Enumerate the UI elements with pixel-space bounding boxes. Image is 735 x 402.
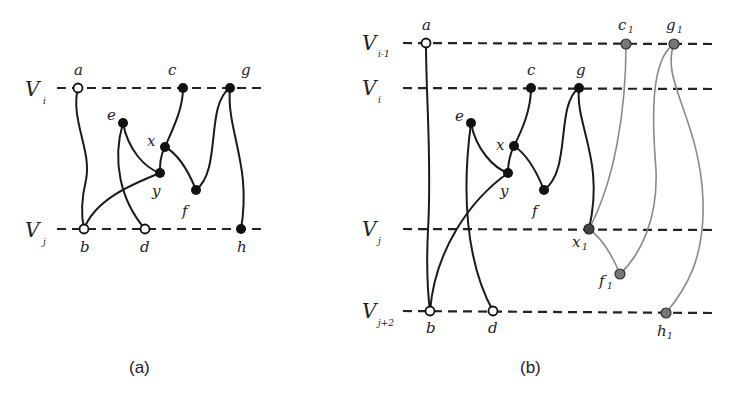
label-c: c	[527, 61, 536, 79]
edge-y-b	[430, 173, 508, 311]
node-a	[74, 84, 83, 93]
node-g	[225, 83, 235, 93]
node-d	[141, 225, 150, 234]
level-label-vj2: V	[362, 299, 379, 323]
label-y: y	[151, 182, 161, 200]
level-label-vj: V	[25, 218, 42, 242]
node-h	[236, 224, 246, 234]
edge-e-d	[466, 123, 493, 311]
label-e: e	[455, 107, 464, 125]
node-b	[426, 307, 435, 316]
node-c	[526, 83, 536, 93]
level-sub-vi-1: i-1	[378, 49, 390, 59]
label-g: g	[576, 61, 586, 79]
node-y	[503, 168, 513, 178]
node-e	[466, 118, 476, 128]
node-f	[191, 185, 201, 195]
level-line-vi-1	[403, 43, 712, 44]
edge-g-f	[196, 88, 230, 190]
level-label-vi: V	[362, 76, 379, 100]
label-x: x	[496, 136, 505, 154]
level-line-vj	[403, 229, 712, 230]
label-g1: g	[666, 16, 676, 34]
label-f: f	[531, 202, 540, 220]
caption-a: (a)	[129, 358, 150, 377]
label-x1: x	[572, 233, 581, 251]
node-b	[80, 225, 89, 234]
label-d: d	[488, 319, 498, 337]
node-c	[178, 83, 188, 93]
edge-c1-x1	[589, 44, 626, 229]
edge-x1-f1	[589, 229, 620, 274]
edge-e-d	[118, 123, 145, 229]
node-g	[574, 83, 584, 93]
label-b: b	[80, 238, 90, 256]
label-d: d	[140, 238, 150, 256]
label-g: g	[241, 61, 251, 79]
node-h1	[661, 308, 671, 318]
node-x1	[584, 224, 594, 234]
level-label-vi: V	[25, 77, 42, 101]
node-c1	[621, 39, 631, 49]
label-f: f	[181, 202, 190, 220]
label-c: c	[168, 61, 177, 79]
panel-a: V i V j a c g e x y f b d h	[25, 61, 266, 377]
level-label-vj: V	[362, 217, 379, 241]
label-h1: h	[657, 322, 667, 340]
edge-g-h	[230, 88, 244, 229]
edge-g-f	[544, 88, 579, 190]
caption-b: (b)	[520, 358, 541, 377]
level-sub-vj2: j+2	[376, 318, 394, 328]
panel-b: V i-1 V i V j V j+2	[362, 16, 712, 377]
node-f1	[615, 269, 625, 279]
label-c1-sub: 1	[628, 25, 634, 35]
node-d	[489, 307, 498, 316]
label-a: a	[74, 61, 83, 79]
edge-c-x	[165, 88, 183, 147]
label-b: b	[426, 319, 436, 337]
node-x	[160, 142, 170, 152]
level-sub-vj: j	[41, 237, 46, 247]
label-c1: c	[618, 16, 627, 34]
level-label-vi-1: V	[362, 31, 379, 55]
edge-a-b	[76, 88, 87, 229]
level-sub-vj: j	[376, 236, 381, 246]
label-f1-sub: 1	[607, 281, 613, 291]
node-e	[118, 118, 128, 128]
label-x: x	[147, 132, 156, 150]
edge-g1-f1	[620, 44, 674, 274]
label-f1: f	[598, 272, 607, 290]
diagram-canvas: V i V j a c g e x y f b d h	[0, 0, 735, 402]
level-sub-vi: i	[43, 96, 46, 106]
edge-x-f	[165, 147, 196, 190]
edge-g-x1	[579, 88, 594, 229]
node-y	[155, 168, 165, 178]
label-h1-sub: 1	[667, 331, 673, 341]
edge-x-f	[514, 146, 544, 190]
node-f	[539, 185, 549, 195]
edge-c-x	[514, 88, 531, 146]
label-e: e	[107, 106, 116, 124]
node-x	[509, 141, 519, 151]
node-a	[422, 39, 431, 48]
label-y: y	[499, 182, 509, 200]
label-a: a	[422, 16, 431, 34]
node-g1	[669, 39, 679, 49]
label-g1-sub: 1	[677, 25, 683, 35]
label-h: h	[237, 238, 247, 256]
edge-g1-h1	[666, 44, 703, 313]
level-line-vi	[403, 88, 712, 89]
label-x1-sub: 1	[582, 242, 588, 252]
level-sub-vi: i	[378, 95, 381, 105]
edge-a-b	[426, 43, 430, 311]
